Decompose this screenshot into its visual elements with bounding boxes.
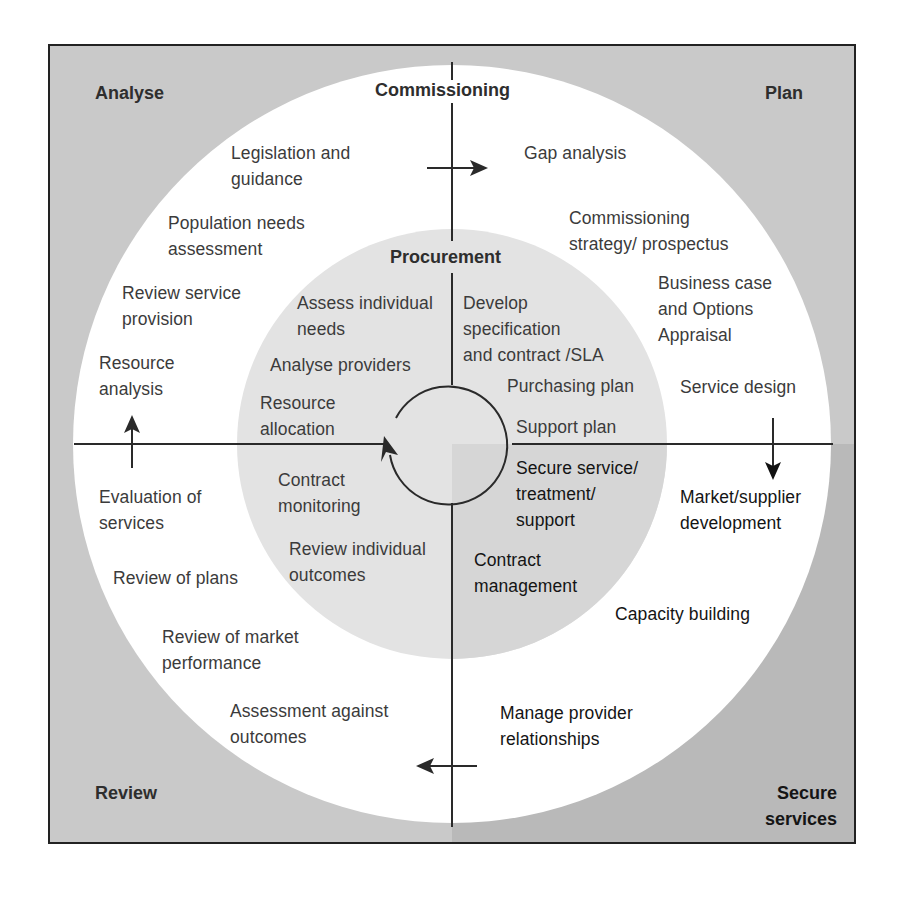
outer-item-commissioning-strategy: Commissioning strategy/ prospectus [569, 205, 729, 257]
inner-item-contract-monitoring: Contract monitoring [278, 467, 361, 519]
inner-item-support-plan: Support plan [516, 414, 616, 440]
outer-item-manage-provider: Manage provider relationships [500, 700, 633, 752]
outer-item-review-plans: Review of plans [113, 565, 238, 591]
diagram-shapes [0, 0, 902, 900]
quadrant-label-review: Review [95, 780, 157, 806]
quadrant-label-analyse: Analyse [95, 80, 164, 106]
outer-item-review-market: Review of market performance [162, 624, 299, 676]
outer-item-business-case: Business case and Options Appraisal [658, 270, 772, 348]
inner-item-assess-needs: Assess individual needs [297, 290, 433, 342]
outer-item-resource-analysis: Resource analysis [99, 350, 175, 402]
inner-item-resource-allocation: Resource allocation [260, 390, 336, 442]
outer-item-review-service-provision: Review service provision [122, 280, 241, 332]
outer-item-population-needs: Population needs assessment [168, 210, 305, 262]
inner-item-analyse-providers: Analyse providers [270, 352, 411, 378]
outer-item-service-design: Service design [680, 374, 796, 400]
inner-item-secure-service: Secure service/ treatment/ support [516, 455, 638, 533]
outer-item-market-supplier: Market/supplier development [680, 484, 801, 536]
quadrant-label-plan: Plan [765, 80, 803, 106]
inner-item-develop-spec: Develop specification and contract /SLA [463, 290, 604, 368]
outer-item-evaluation: Evaluation of services [99, 484, 201, 536]
outer-title-commissioning: Commissioning [375, 80, 510, 101]
inner-item-review-individual: Review individual outcomes [289, 536, 426, 588]
outer-item-gap-analysis: Gap analysis [524, 140, 626, 166]
outer-item-legislation: Legislation and guidance [231, 140, 350, 192]
commissioning-cycle-diagram: Analyse Plan Review Secure services Comm… [0, 0, 902, 900]
quadrant-label-secure-services: Secure services [755, 780, 837, 832]
inner-title-procurement: Procurement [390, 247, 501, 268]
outer-item-capacity-building: Capacity building [615, 601, 750, 627]
inner-item-purchasing-plan: Purchasing plan [507, 373, 634, 399]
inner-item-contract-management: Contract management [474, 547, 577, 599]
outer-item-assessment-outcomes: Assessment against outcomes [230, 698, 388, 750]
